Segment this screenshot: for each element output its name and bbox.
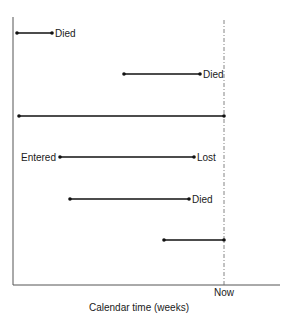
start-label: Entered [21,152,56,163]
start-point-icon [162,238,166,242]
start-point-icon [15,31,19,35]
end-label: Died [55,28,76,39]
start-point-icon [122,72,126,76]
now-label: Now [214,287,235,298]
subject-timeline: Died [15,28,75,39]
end-point-icon [222,238,226,242]
start-point-icon [17,114,21,118]
subject-timelines: DiedDiedEnteredLostDied [15,28,226,242]
x-axis-label: Calendar time (weeks) [89,302,189,313]
start-point-icon [58,155,62,159]
end-label: Died [203,69,224,80]
end-label: Died [192,194,213,205]
end-point-icon [222,114,226,118]
end-label: Lost [197,152,216,163]
subject-timeline [162,238,226,242]
start-point-icon [68,197,72,201]
timeline-diagram: DiedDiedEnteredLostDied Now Calendar tim… [0,0,299,323]
end-point-icon [198,72,202,76]
subject-timeline: EnteredLost [21,152,216,163]
subject-timeline: Died [122,69,223,80]
end-point-icon [192,155,196,159]
subject-timeline [17,114,226,118]
subject-timeline: Died [68,194,212,205]
end-point-icon [187,197,191,201]
end-point-icon [50,31,54,35]
